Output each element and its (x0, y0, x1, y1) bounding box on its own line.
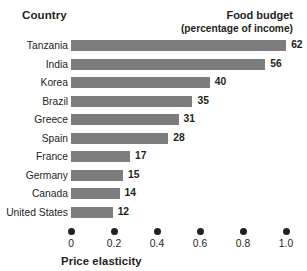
axis-tick-dot (197, 228, 204, 235)
bar-value-label: 28 (173, 132, 184, 143)
axis-tick-label: 0.2 (94, 238, 134, 250)
axis-tick-label: 1.0 (266, 238, 306, 250)
country-label: Greece (0, 114, 68, 125)
axis-tick-label: 0.6 (180, 238, 220, 250)
country-label: Tanzania (0, 40, 68, 51)
bar-row: Korea40 (0, 75, 307, 94)
axis-tick-label: 0.4 (137, 238, 177, 250)
bar-container (71, 151, 130, 162)
bar (71, 59, 265, 70)
country-label: Spain (0, 133, 68, 144)
bar-row: India56 (0, 57, 307, 76)
bar-value-label: 31 (184, 113, 195, 124)
bar-container (71, 96, 192, 107)
bar-row: Spain28 (0, 131, 307, 150)
food-budget-column-header: Food budget (percentage of income) (123, 9, 293, 35)
bar-row: Canada14 (0, 186, 307, 205)
bar-value-label: 12 (118, 206, 129, 217)
bar-rows: Tanzania62India56Korea40Brazil35Greece31… (0, 38, 307, 223)
axis-tick-dot (154, 228, 161, 235)
axis-tick-dot (111, 228, 118, 235)
bar-container (71, 188, 120, 199)
bar-value-label: 56 (270, 58, 281, 69)
bar-container (71, 207, 113, 218)
bar-container (71, 77, 210, 88)
country-label: Brazil (0, 96, 68, 107)
bar-container (71, 133, 168, 144)
bar-value-label: 14 (125, 187, 136, 198)
axis-tick-dot (68, 228, 75, 235)
country-label: United States (0, 207, 68, 218)
bar-row: Germany15 (0, 168, 307, 187)
axis-tick-dot (283, 228, 290, 235)
country-label: India (0, 59, 68, 70)
bar-container (71, 59, 265, 70)
bar (71, 170, 123, 181)
axis-tick-dot (240, 228, 247, 235)
country-label: France (0, 151, 68, 162)
food-budget-header-line2: (percentage of income) (123, 22, 293, 35)
axis-title: Price elasticity (61, 255, 142, 267)
bar (71, 207, 113, 218)
bar-value-label: 40 (215, 76, 226, 87)
bar (71, 188, 120, 199)
bar-value-label: 35 (197, 95, 208, 106)
bar-row: Brazil35 (0, 94, 307, 113)
axis-tick-label: 0.8 (223, 238, 263, 250)
bar-value-label: 17 (135, 150, 146, 161)
bar (71, 40, 286, 51)
axis-tick-label: 0 (51, 238, 91, 250)
bar-container (71, 40, 286, 51)
bar-row: United States12 (0, 205, 307, 224)
bar-row: France17 (0, 149, 307, 168)
price-elasticity-axis: Price elasticity 00.20.40.60.81.0 (0, 228, 307, 271)
bar-container (71, 114, 179, 125)
bar-container (71, 170, 123, 181)
country-column-header: Country (22, 9, 67, 21)
bar-row: Tanzania62 (0, 38, 307, 57)
bar-chart: Country Food budget (percentage of incom… (0, 0, 307, 271)
bar (71, 114, 179, 125)
country-label: Germany (0, 170, 68, 181)
bar (71, 133, 168, 144)
bar-row: Greece31 (0, 112, 307, 131)
bar (71, 77, 210, 88)
food-budget-header-line1: Food budget (226, 9, 293, 21)
bar-value-label: 62 (291, 39, 302, 50)
bar (71, 96, 192, 107)
bar (71, 151, 130, 162)
country-label: Korea (0, 77, 68, 88)
bar-value-label: 15 (128, 169, 139, 180)
country-label: Canada (0, 188, 68, 199)
